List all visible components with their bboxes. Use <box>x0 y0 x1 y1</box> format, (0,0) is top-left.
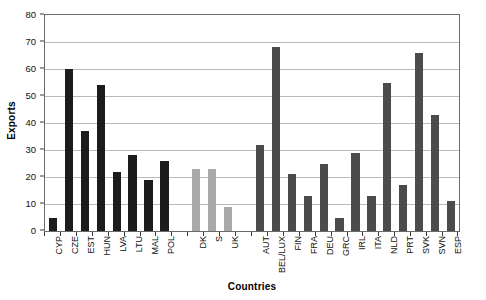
bar-grc[interactable] <box>335 218 343 232</box>
y-axis-tick-label: 20 <box>25 171 36 182</box>
x-axis-category-labels: CYPCZEESTHUNLVALTUMALPOLDKSUKAUTBEL/LUXF… <box>44 236 460 282</box>
x-axis-label-ita: ITA <box>374 236 383 249</box>
bar-bel-lux[interactable] <box>272 47 280 231</box>
bar-lva[interactable] <box>113 172 121 231</box>
x-axis-label-fra: FRA <box>310 236 319 254</box>
bar-cyp[interactable] <box>49 218 57 232</box>
bar-deu[interactable] <box>320 164 328 232</box>
x-axis-label-pol: POL <box>167 236 176 254</box>
x-axis-label-est: EST <box>87 236 96 254</box>
x-axis-label-esp: ESP <box>454 236 463 254</box>
bar-irl[interactable] <box>351 153 359 231</box>
bar-mal[interactable] <box>144 180 152 231</box>
x-axis-label-svn: SVN <box>438 236 447 255</box>
bar-fin[interactable] <box>288 174 296 231</box>
bar-dk[interactable] <box>192 169 200 231</box>
bar-hun[interactable] <box>97 85 105 231</box>
x-axis-label-aut: AUT <box>262 236 271 254</box>
plot-area <box>44 14 460 232</box>
bar-est[interactable] <box>81 131 89 231</box>
exports-bar-chart: Exports 01020304050607080 CYPCZEESTHUNLV… <box>0 0 486 300</box>
y-axis-tick-label: 10 <box>25 198 36 209</box>
y-axis-tick-label: 40 <box>25 117 36 128</box>
bar-esp[interactable] <box>447 201 455 231</box>
y-axis-tick-label: 50 <box>25 90 36 101</box>
y-axis-title-text: Exports <box>6 101 17 140</box>
x-axis-label-bel-lux: BEL/LUX <box>278 236 287 273</box>
y-axis-tick-label: 80 <box>25 9 36 20</box>
x-axis-label-cze: CZE <box>71 236 80 254</box>
x-axis-label-fin: FIN <box>294 236 303 251</box>
x-axis-label-s: S <box>215 236 224 242</box>
bar-ltu[interactable] <box>128 155 136 231</box>
x-axis-label-prt: PRT <box>406 236 415 254</box>
bar-prt[interactable] <box>399 185 407 231</box>
bar-pol[interactable] <box>160 161 168 231</box>
bar-aut[interactable] <box>256 145 264 231</box>
x-axis-label-mal: MAL <box>151 236 160 255</box>
x-axis-label-dk: DK <box>199 236 208 249</box>
x-axis-label-nld: NLD <box>390 236 399 254</box>
x-axis-label-hun: HUN <box>103 236 112 256</box>
x-axis-label-cyp: CYP <box>55 236 64 255</box>
x-axis-title: Countries <box>44 281 460 292</box>
x-axis-label-irl: IRL <box>358 236 367 250</box>
bar-svn[interactable] <box>431 115 439 231</box>
y-axis-tick-label: 0 <box>31 225 36 236</box>
x-axis-label-deu: DEU <box>326 236 335 255</box>
bar-svk[interactable] <box>415 53 423 231</box>
x-axis-label-grc: GRC <box>342 236 351 256</box>
y-axis-tick-labels: 01020304050607080 <box>18 9 40 235</box>
bar-uk[interactable] <box>224 207 232 231</box>
bar-ita[interactable] <box>367 196 375 231</box>
bar-fra[interactable] <box>304 196 312 231</box>
x-axis-label-svk: SVK <box>422 236 431 254</box>
y-axis-tick-label: 30 <box>25 144 36 155</box>
bar-s[interactable] <box>208 169 216 231</box>
x-axis-label-lva: LVA <box>119 236 128 252</box>
bar-series <box>45 15 459 231</box>
x-axis-label-uk: UK <box>231 236 240 249</box>
y-axis-tick-label: 60 <box>25 63 36 74</box>
bar-cze[interactable] <box>65 69 73 231</box>
bar-nld[interactable] <box>383 83 391 232</box>
y-axis-tick-label: 70 <box>25 36 36 47</box>
x-axis-label-ltu: LTU <box>135 236 144 252</box>
